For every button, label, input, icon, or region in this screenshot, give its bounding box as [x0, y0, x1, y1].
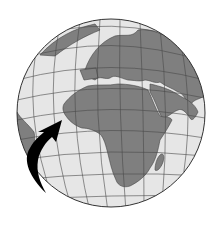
globe [17, 19, 205, 212]
globe-illustration [0, 0, 220, 230]
